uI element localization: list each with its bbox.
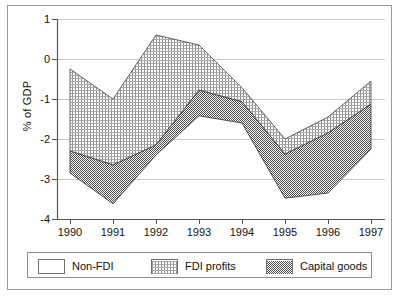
legend-swatch-non-fdi: [38, 259, 65, 274]
legend-swatch-fdi-profits: [151, 259, 178, 274]
x-tick-label-1997: 1997: [349, 226, 393, 238]
legend-item-fdi-profits[interactable]: FDI profits: [151, 258, 236, 274]
x-axis-ticks: [71, 220, 372, 225]
figure-root: % of GDP 1 0 -1 -2 -3 -4 1990 1991 1992 …: [0, 0, 400, 296]
y-tick-label-1: 1: [26, 13, 50, 25]
y-tick-label-minus-4: -4: [26, 213, 50, 225]
legend-item-non-fdi[interactable]: Non-FDI: [38, 258, 114, 274]
legend-swatch-fdi-profits-pattern: [152, 261, 177, 274]
legend-label-fdi-profits: FDI profits: [185, 260, 236, 272]
x-tick-label-1992: 1992: [134, 226, 178, 238]
chart-legend: Non-FDI FDI profits Capital goods: [27, 252, 372, 278]
y-axis-ticks: [52, 20, 57, 220]
y-tick-label-minus-2: -2: [26, 133, 50, 145]
legend-swatch-capital-goods: [266, 259, 293, 274]
x-tick-label-1990: 1990: [48, 226, 92, 238]
legend-swatch-capital-goods-pattern: [267, 261, 292, 274]
legend-label-non-fdi: Non-FDI: [72, 260, 114, 272]
y-tick-label-0: 0: [26, 53, 50, 65]
x-tick-label-1993: 1993: [177, 226, 221, 238]
y-tick-label-minus-1: -1: [26, 93, 50, 105]
x-tick-label-1996: 1996: [306, 226, 350, 238]
legend-item-capital-goods[interactable]: Capital goods: [266, 258, 367, 274]
x-tick-label-1991: 1991: [91, 226, 135, 238]
y-tick-label-minus-3: -3: [26, 173, 50, 185]
x-tick-label-1995: 1995: [263, 226, 307, 238]
legend-label-capital-goods: Capital goods: [300, 260, 367, 272]
x-tick-label-1994: 1994: [220, 226, 264, 238]
